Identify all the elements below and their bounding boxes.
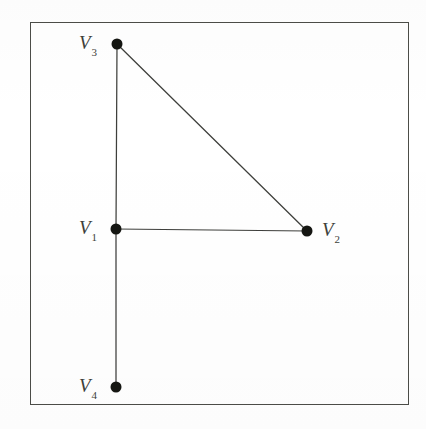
vertex-dot-v3[interactable] — [112, 39, 123, 50]
vertex-dot-v1[interactable] — [111, 224, 122, 235]
vertex-label-v1-letter: V — [79, 217, 91, 238]
vertex-dot-v4[interactable] — [111, 382, 122, 393]
vertex-label-v4-subscript: 4 — [92, 389, 98, 401]
edge-v3-v1 — [116, 44, 117, 229]
vertex-label-v2-subscript: 2 — [335, 233, 341, 245]
vertex-label-v1: V1 — [79, 218, 96, 241]
figure-root: V3 V1 V2 V4 — [0, 0, 426, 429]
edge-v1-v2 — [116, 229, 307, 231]
vertex-label-v2-letter: V — [322, 219, 334, 240]
edge-v3-v2 — [117, 44, 307, 231]
vertex-label-v4-letter: V — [79, 375, 91, 396]
vertex-label-v3: V3 — [79, 33, 96, 56]
vertex-label-v3-letter: V — [79, 32, 91, 53]
graph-drawing-canvas — [0, 0, 426, 429]
vertex-label-v1-subscript: 1 — [92, 231, 98, 243]
vertex-label-v4: V4 — [79, 376, 96, 399]
vertex-dot-v2[interactable] — [302, 226, 313, 237]
vertex-label-v2: V2 — [322, 220, 339, 243]
vertex-label-v3-subscript: 3 — [92, 46, 98, 58]
